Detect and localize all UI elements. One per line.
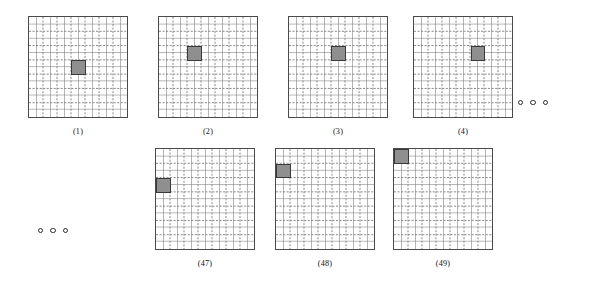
panel-caption: (2) [158,127,258,136]
grid-canvas [28,16,128,118]
grid-canvas [275,148,375,250]
panel-caption: (49) [393,259,493,268]
panel-caption: (3) [288,127,388,136]
ellipsis-dot-icon [530,100,535,105]
panel-caption: (47) [155,259,255,268]
shaded-cell-marker [331,46,346,61]
grid-major-lines [276,149,374,249]
panel-caption: (4) [413,127,513,136]
shaded-cell-marker [71,60,86,75]
grid-canvas [155,148,255,250]
ellipsis-dot-icon [50,228,55,233]
grid-major-lines [156,149,254,249]
grid-major-lines [289,17,387,117]
ellipsis-dot-icon [543,100,548,105]
grid-canvas [393,148,493,250]
ellipsis-dot-icon [38,228,43,233]
grid-major-lines [394,149,492,249]
grid-canvas [413,16,513,118]
figure-sequence-grids: (1)(2)(3)(4)(47)(48)(49) [0,0,600,284]
grid-panel-1: (1) [28,16,128,118]
shaded-cell-marker [394,149,409,164]
grid-major-lines [414,17,512,117]
grid-canvas [158,16,258,118]
shaded-cell-marker [471,46,486,61]
panel-caption: (1) [28,127,128,136]
grid-panel-49: (49) [393,148,493,250]
grid-panel-48: (48) [275,148,375,250]
ellipsis-bottom-left [38,228,68,233]
grid-panel-47: (47) [155,148,255,250]
shaded-cell-marker [187,46,202,61]
panel-caption: (48) [275,259,375,268]
grid-panel-3: (3) [288,16,388,118]
grid-major-lines [159,17,257,117]
shaded-cell-marker [156,178,171,193]
shaded-cell-marker [276,164,291,179]
grid-panel-4: (4) [413,16,513,118]
grid-panel-2: (2) [158,16,258,118]
ellipsis-dot-icon [63,228,68,233]
ellipsis-top-right [518,100,548,105]
ellipsis-dot-icon [518,100,523,105]
grid-canvas [288,16,388,118]
